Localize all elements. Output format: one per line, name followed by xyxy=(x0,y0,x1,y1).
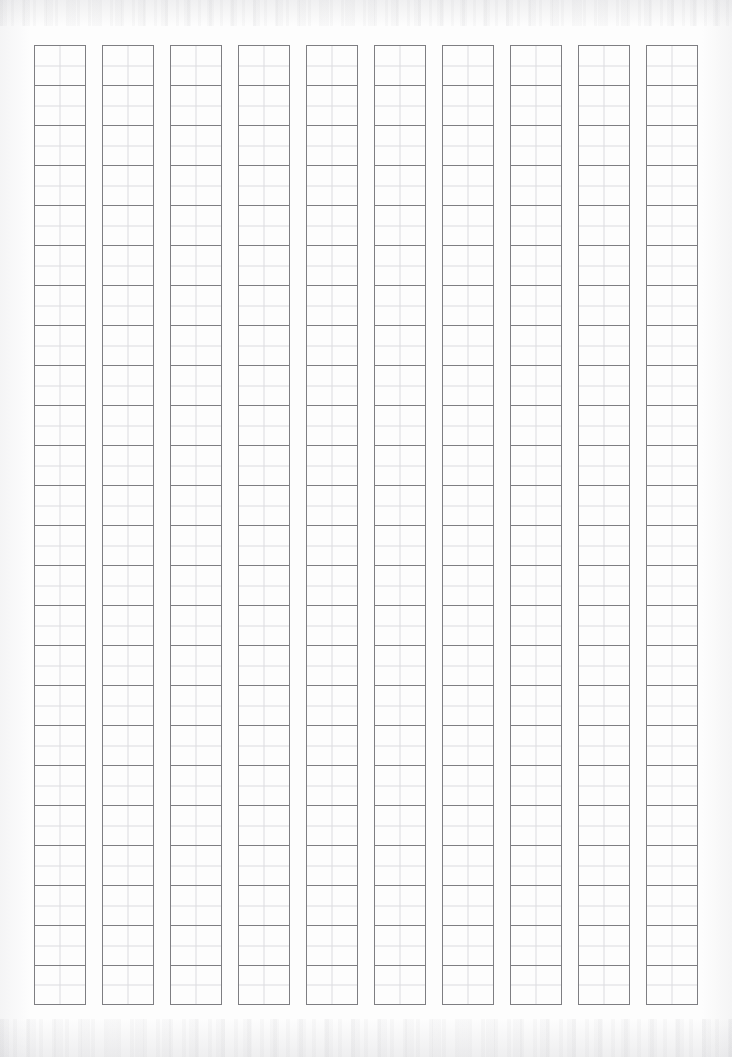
grid-cell[interactable] xyxy=(34,645,86,685)
grid-cell[interactable] xyxy=(442,965,494,1005)
grid-cell[interactable] xyxy=(170,565,222,605)
grid-cell[interactable] xyxy=(34,605,86,645)
grid-cell[interactable] xyxy=(442,285,494,325)
grid-cell[interactable] xyxy=(646,525,698,565)
grid-cell[interactable] xyxy=(442,125,494,165)
grid-cell[interactable] xyxy=(510,805,562,845)
grid-cell[interactable] xyxy=(510,85,562,125)
grid-cell[interactable] xyxy=(442,765,494,805)
grid-cell[interactable] xyxy=(578,445,630,485)
grid-cell[interactable] xyxy=(442,325,494,365)
grid-cell[interactable] xyxy=(170,205,222,245)
grid-cell[interactable] xyxy=(510,165,562,205)
grid-cell[interactable] xyxy=(646,885,698,925)
grid-cell[interactable] xyxy=(170,165,222,205)
grid-cell[interactable] xyxy=(578,485,630,525)
grid-cell[interactable] xyxy=(374,85,426,125)
grid-cell[interactable] xyxy=(578,685,630,725)
grid-cell[interactable] xyxy=(374,525,426,565)
grid-cell[interactable] xyxy=(442,405,494,445)
grid-cell[interactable] xyxy=(102,845,154,885)
grid-cell[interactable] xyxy=(238,205,290,245)
grid-cell[interactable] xyxy=(34,685,86,725)
grid-cell[interactable] xyxy=(238,965,290,1005)
grid-cell[interactable] xyxy=(578,805,630,845)
grid-cell[interactable] xyxy=(238,885,290,925)
grid-cell[interactable] xyxy=(306,485,358,525)
grid-cell[interactable] xyxy=(442,45,494,85)
grid-cell[interactable] xyxy=(238,645,290,685)
grid-cell[interactable] xyxy=(646,205,698,245)
grid-cell[interactable] xyxy=(170,485,222,525)
grid-cell[interactable] xyxy=(238,125,290,165)
grid-cell[interactable] xyxy=(34,965,86,1005)
grid-cell[interactable] xyxy=(578,85,630,125)
grid-cell[interactable] xyxy=(34,445,86,485)
grid-cell[interactable] xyxy=(170,245,222,285)
grid-cell[interactable] xyxy=(102,405,154,445)
grid-cell[interactable] xyxy=(238,45,290,85)
grid-cell[interactable] xyxy=(170,725,222,765)
grid-cell[interactable] xyxy=(306,85,358,125)
grid-cell[interactable] xyxy=(102,565,154,605)
grid-cell[interactable] xyxy=(34,925,86,965)
grid-cell[interactable] xyxy=(238,845,290,885)
grid-cell[interactable] xyxy=(34,885,86,925)
grid-cell[interactable] xyxy=(238,805,290,845)
grid-cell[interactable] xyxy=(374,285,426,325)
grid-cell[interactable] xyxy=(510,845,562,885)
grid-cell[interactable] xyxy=(170,405,222,445)
grid-cell[interactable] xyxy=(238,325,290,365)
grid-cell[interactable] xyxy=(578,605,630,645)
grid-cell[interactable] xyxy=(442,685,494,725)
grid-cell[interactable] xyxy=(306,445,358,485)
grid-cell[interactable] xyxy=(34,725,86,765)
grid-cell[interactable] xyxy=(646,445,698,485)
grid-cell[interactable] xyxy=(170,45,222,85)
grid-cell[interactable] xyxy=(578,525,630,565)
grid-cell[interactable] xyxy=(442,445,494,485)
grid-cell[interactable] xyxy=(510,965,562,1005)
grid-cell[interactable] xyxy=(34,765,86,805)
grid-cell[interactable] xyxy=(34,325,86,365)
grid-cell[interactable] xyxy=(510,445,562,485)
grid-cell[interactable] xyxy=(102,725,154,765)
grid-cell[interactable] xyxy=(510,45,562,85)
grid-cell[interactable] xyxy=(510,405,562,445)
grid-cell[interactable] xyxy=(646,325,698,365)
grid-cell[interactable] xyxy=(238,725,290,765)
grid-cell[interactable] xyxy=(374,925,426,965)
grid-cell[interactable] xyxy=(510,885,562,925)
grid-cell[interactable] xyxy=(578,365,630,405)
grid-cell[interactable] xyxy=(442,645,494,685)
grid-cell[interactable] xyxy=(170,925,222,965)
grid-cell[interactable] xyxy=(34,485,86,525)
grid-cell[interactable] xyxy=(102,605,154,645)
grid-cell[interactable] xyxy=(34,245,86,285)
grid-cell[interactable] xyxy=(374,205,426,245)
grid-cell[interactable] xyxy=(102,645,154,685)
grid-cell[interactable] xyxy=(238,485,290,525)
grid-cell[interactable] xyxy=(102,805,154,845)
grid-cell[interactable] xyxy=(646,565,698,605)
grid-cell[interactable] xyxy=(34,365,86,405)
grid-cell[interactable] xyxy=(306,125,358,165)
grid-cell[interactable] xyxy=(578,965,630,1005)
grid-cell[interactable] xyxy=(34,525,86,565)
grid-cell[interactable] xyxy=(578,325,630,365)
grid-cell[interactable] xyxy=(102,445,154,485)
grid-cell[interactable] xyxy=(102,85,154,125)
grid-cell[interactable] xyxy=(238,445,290,485)
grid-cell[interactable] xyxy=(646,925,698,965)
grid-cell[interactable] xyxy=(510,125,562,165)
grid-cell[interactable] xyxy=(34,805,86,845)
grid-cell[interactable] xyxy=(374,45,426,85)
grid-cell[interactable] xyxy=(374,605,426,645)
grid-cell[interactable] xyxy=(646,845,698,885)
grid-cell[interactable] xyxy=(170,805,222,845)
grid-cell[interactable] xyxy=(578,845,630,885)
grid-cell[interactable] xyxy=(306,205,358,245)
grid-cell[interactable] xyxy=(442,485,494,525)
grid-cell[interactable] xyxy=(646,285,698,325)
grid-cell[interactable] xyxy=(578,645,630,685)
